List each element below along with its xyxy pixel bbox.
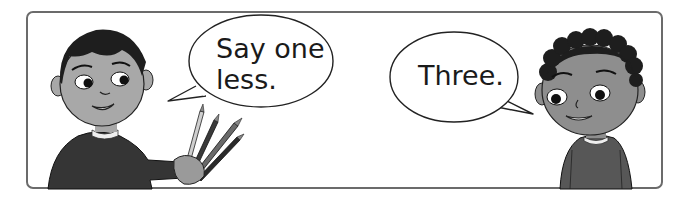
speech-illustration: Say one less. Three.	[0, 0, 692, 199]
speech-text-right: Three.	[418, 60, 504, 91]
speech-text-left: Say one less.	[216, 33, 325, 95]
right-boy-illustration	[535, 28, 645, 189]
characters-artwork	[0, 0, 692, 199]
